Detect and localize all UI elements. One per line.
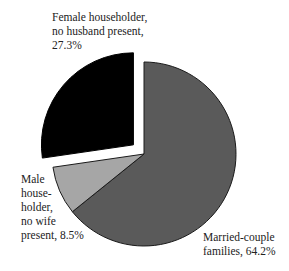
label-married-couple: Married-couple families, 64.2% [203, 230, 276, 258]
slice-female-householder [41, 53, 133, 158]
label-female-householder: Female householder, no husband present, … [52, 10, 147, 52]
label-male-householder: Male house- holder, no wife present, 8.5… [21, 172, 84, 242]
